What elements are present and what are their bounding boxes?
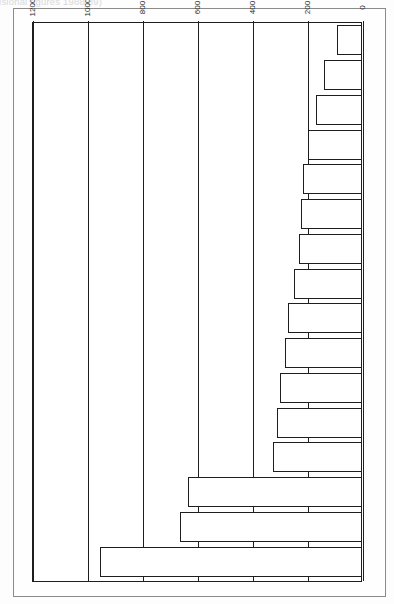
gridline-0 [363, 21, 364, 581]
bar-cell [31, 232, 361, 267]
bar [299, 234, 361, 264]
value-tick-400: 400 [248, 0, 257, 25]
bar-cell [31, 544, 361, 579]
bar-cell [31, 510, 361, 545]
chart-title: Sectors (provisional figures 1988/89) [0, 0, 140, 7]
bar [303, 164, 361, 194]
bar [337, 25, 361, 55]
bar [288, 303, 361, 333]
bar [308, 130, 361, 160]
bar [188, 477, 361, 507]
value-tick-800: 800 [138, 0, 147, 25]
chart-page: Sectors (provisional figures 1988/89) 02… [0, 0, 394, 604]
value-tick-1000: 1000 [83, 0, 92, 25]
bar-cell [31, 301, 361, 336]
value-tick-600: 600 [193, 0, 202, 25]
bar-cell [31, 266, 361, 301]
bar [100, 547, 361, 577]
bar [301, 199, 361, 229]
value-tick-0: 0 [358, 0, 367, 25]
bar [316, 95, 361, 125]
bar [324, 60, 361, 90]
bar-cell [31, 336, 361, 371]
bar-cell [31, 371, 361, 406]
value-tick-200: 200 [303, 0, 312, 25]
bar [277, 408, 361, 438]
bar [285, 338, 361, 368]
bar-cell [31, 405, 361, 440]
value-tick-1200: 1200 [28, 0, 37, 25]
bar-cell [31, 475, 361, 510]
bar-cell [31, 162, 361, 197]
bar-cell [31, 23, 361, 58]
bar-cell [31, 127, 361, 162]
chart-stage [32, 22, 362, 582]
bar [273, 442, 361, 472]
bar-cell [31, 93, 361, 128]
bar [180, 512, 362, 542]
bar-cell [31, 197, 361, 232]
bar [294, 269, 361, 299]
bar-series [31, 21, 361, 581]
bar-cell [31, 440, 361, 475]
plot-area [32, 22, 362, 582]
bar [280, 373, 361, 403]
bar-cell [31, 58, 361, 93]
